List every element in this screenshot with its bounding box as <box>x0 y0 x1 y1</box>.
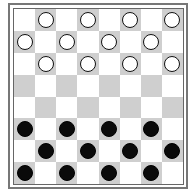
square-r4-c4[interactable] <box>99 97 120 119</box>
square-r6-c7[interactable] <box>162 140 183 162</box>
white-checker-piece[interactable] <box>101 34 117 50</box>
square-r0-c7[interactable] <box>162 9 183 31</box>
square-r4-c5[interactable] <box>120 97 141 119</box>
square-r6-c1[interactable] <box>35 140 56 162</box>
square-r1-c0[interactable] <box>14 31 35 53</box>
square-r7-c4[interactable] <box>99 162 120 184</box>
white-checker-piece[interactable] <box>143 34 159 50</box>
square-r6-c4[interactable] <box>99 140 120 162</box>
square-r2-c4[interactable] <box>99 53 120 75</box>
black-checker-piece[interactable] <box>17 165 33 181</box>
white-checker-piece[interactable] <box>122 56 138 72</box>
square-r6-c0[interactable] <box>14 140 35 162</box>
square-r3-c4[interactable] <box>99 75 120 97</box>
white-checker-piece[interactable] <box>164 12 180 28</box>
square-r1-c6[interactable] <box>141 31 162 53</box>
black-checker-piece[interactable] <box>59 121 75 137</box>
square-r3-c6[interactable] <box>141 75 162 97</box>
square-r4-c0[interactable] <box>14 97 35 119</box>
white-checker-piece[interactable] <box>59 34 75 50</box>
square-r2-c2[interactable] <box>56 53 77 75</box>
square-r0-c3[interactable] <box>77 9 98 31</box>
square-r2-c5[interactable] <box>120 53 141 75</box>
black-checker-piece[interactable] <box>38 143 54 159</box>
white-checker-piece[interactable] <box>17 34 33 50</box>
white-checker-piece[interactable] <box>80 56 96 72</box>
square-r4-c7[interactable] <box>162 97 183 119</box>
square-r1-c5[interactable] <box>120 31 141 53</box>
square-r7-c3[interactable] <box>77 162 98 184</box>
square-r7-c7[interactable] <box>162 162 183 184</box>
square-r5-c0[interactable] <box>14 118 35 140</box>
square-r1-c7[interactable] <box>162 31 183 53</box>
black-checker-piece[interactable] <box>164 143 180 159</box>
square-r1-c3[interactable] <box>77 31 98 53</box>
black-checker-piece[interactable] <box>59 165 75 181</box>
square-r0-c4[interactable] <box>99 9 120 31</box>
square-r0-c0[interactable] <box>14 9 35 31</box>
square-r0-c6[interactable] <box>141 9 162 31</box>
square-r5-c4[interactable] <box>99 118 120 140</box>
square-r0-c2[interactable] <box>56 9 77 31</box>
square-r7-c0[interactable] <box>14 162 35 184</box>
white-checker-piece[interactable] <box>38 12 54 28</box>
square-r2-c6[interactable] <box>141 53 162 75</box>
square-r4-c6[interactable] <box>141 97 162 119</box>
square-r3-c2[interactable] <box>56 75 77 97</box>
white-checker-piece[interactable] <box>38 56 54 72</box>
black-checker-piece[interactable] <box>101 121 117 137</box>
square-r0-c5[interactable] <box>120 9 141 31</box>
square-r5-c2[interactable] <box>56 118 77 140</box>
black-checker-piece[interactable] <box>17 121 33 137</box>
square-r2-c7[interactable] <box>162 53 183 75</box>
square-r3-c7[interactable] <box>162 75 183 97</box>
white-checker-piece[interactable] <box>122 12 138 28</box>
square-r5-c6[interactable] <box>141 118 162 140</box>
white-checker-piece[interactable] <box>164 56 180 72</box>
square-r4-c1[interactable] <box>35 97 56 119</box>
square-r4-c3[interactable] <box>77 97 98 119</box>
square-r2-c1[interactable] <box>35 53 56 75</box>
square-r5-c3[interactable] <box>77 118 98 140</box>
square-r7-c6[interactable] <box>141 162 162 184</box>
square-r3-c5[interactable] <box>120 75 141 97</box>
black-checker-piece[interactable] <box>143 165 159 181</box>
square-r5-c7[interactable] <box>162 118 183 140</box>
square-r6-c5[interactable] <box>120 140 141 162</box>
square-r6-c2[interactable] <box>56 140 77 162</box>
square-r3-c0[interactable] <box>14 75 35 97</box>
square-r6-c6[interactable] <box>141 140 162 162</box>
black-checker-piece[interactable] <box>143 121 159 137</box>
square-r1-c2[interactable] <box>56 31 77 53</box>
square-r2-c0[interactable] <box>14 53 35 75</box>
square-r0-c1[interactable] <box>35 9 56 31</box>
square-r3-c3[interactable] <box>77 75 98 97</box>
square-r4-c2[interactable] <box>56 97 77 119</box>
black-checker-piece[interactable] <box>80 143 96 159</box>
square-r7-c2[interactable] <box>56 162 77 184</box>
square-r2-c3[interactable] <box>77 53 98 75</box>
white-checker-piece[interactable] <box>80 12 96 28</box>
black-checker-piece[interactable] <box>101 165 117 181</box>
square-r1-c4[interactable] <box>99 31 120 53</box>
square-r6-c3[interactable] <box>77 140 98 162</box>
square-r5-c1[interactable] <box>35 118 56 140</box>
square-r5-c5[interactable] <box>120 118 141 140</box>
black-checker-piece[interactable] <box>122 143 138 159</box>
square-r1-c1[interactable] <box>35 31 56 53</box>
square-r7-c5[interactable] <box>120 162 141 184</box>
square-r3-c1[interactable] <box>35 75 56 97</box>
square-r7-c1[interactable] <box>35 162 56 184</box>
checkers-board <box>13 8 184 185</box>
